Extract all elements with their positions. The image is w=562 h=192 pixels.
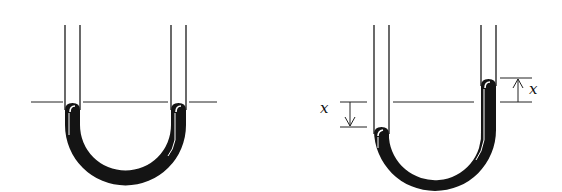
liquid-column bbox=[65, 103, 186, 185]
manometer-figure: x x bbox=[0, 0, 562, 192]
displacement-label-right: x bbox=[529, 80, 538, 98]
right-displacement-marker bbox=[500, 78, 532, 102]
liquid-column bbox=[374, 79, 496, 191]
tube-walls bbox=[374, 25, 496, 134]
displacement-label-left: x bbox=[320, 99, 329, 117]
u-tube-displaced: x x bbox=[320, 25, 538, 191]
u-tube-equilibrium bbox=[31, 25, 217, 185]
tube-walls bbox=[65, 25, 186, 110]
left-displacement-marker bbox=[340, 102, 367, 127]
